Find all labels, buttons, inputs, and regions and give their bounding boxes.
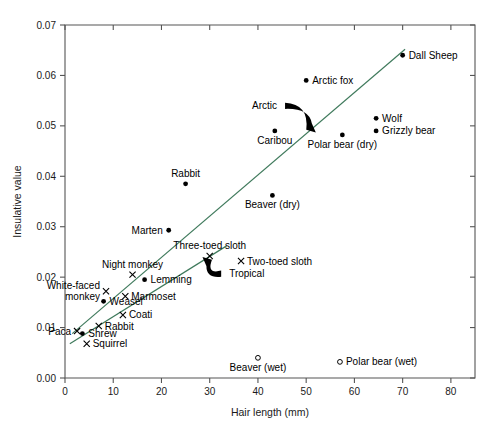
y-tick-label: 0.07 — [37, 20, 57, 31]
data-point-label: Squirrel — [93, 338, 127, 349]
x-tick-label: 80 — [445, 386, 457, 397]
x-axis-title: Hair length (mm) — [231, 406, 309, 418]
data-point-marker — [238, 258, 244, 264]
data-point-label: Night monkey — [102, 259, 163, 270]
data-point-marker — [129, 272, 135, 278]
x-tick-label: 30 — [204, 386, 216, 397]
data-point-label: Rabbit — [171, 168, 200, 179]
data-point-marker — [272, 129, 277, 134]
data-point-marker — [84, 341, 90, 347]
data-point-label: Polar bear (wet) — [346, 356, 417, 367]
data-point-marker — [120, 312, 126, 318]
data-point-marker — [183, 181, 188, 186]
data-point-marker — [340, 133, 345, 138]
arctic-annotation-arrow — [285, 103, 316, 133]
data-point-label: White-faced — [47, 280, 100, 291]
tropical-annotation-label: Tropical — [229, 268, 264, 279]
chart-canvas: 010203040506070800.000.010.020.030.040.0… — [0, 0, 492, 430]
insulative-value-scatter-chart: 010203040506070800.000.010.020.030.040.0… — [0, 0, 492, 430]
y-tick-label: 0.00 — [37, 373, 57, 384]
data-point-marker — [166, 228, 171, 233]
data-point-marker — [207, 253, 213, 259]
arctic-trend — [72, 49, 405, 333]
x-tick-label: 0 — [62, 386, 68, 397]
data-point-label: Beaver (dry) — [245, 199, 300, 210]
data-point-marker — [374, 129, 379, 134]
data-point-label: Polar bear (dry) — [308, 139, 377, 150]
data-point-marker — [103, 288, 109, 294]
tropical-annotation-arrow — [202, 257, 221, 277]
data-point-label: Caribou — [257, 135, 292, 146]
data-point-marker — [400, 53, 405, 58]
data-point-label: Marten — [132, 225, 163, 236]
data-point-marker — [101, 299, 106, 304]
data-point-marker — [338, 359, 343, 364]
y-tick-label: 0.05 — [37, 120, 57, 131]
x-tick-label: 70 — [397, 386, 409, 397]
data-point-label: Two-toed sloth — [247, 256, 312, 267]
data-point-marker — [270, 193, 275, 198]
data-point-label: Wolf — [382, 113, 402, 124]
data-point-label: Dall Sheep — [409, 50, 458, 61]
data-point-label: Arctic fox — [312, 75, 353, 86]
data-point-label: Beaver (wet) — [230, 362, 287, 373]
data-point-label: Paca — [48, 326, 71, 337]
x-tick-label: 20 — [156, 386, 168, 397]
data-point-labels-layer: Dall SheepArctic foxWolfGrizzly bearPola… — [47, 50, 458, 373]
x-tick-label: 40 — [252, 386, 264, 397]
data-point-label: Marmoset — [131, 291, 176, 302]
data-point-marker — [374, 116, 379, 121]
annotations-layer: ArcticTropical — [202, 100, 315, 279]
y-tick-label: 0.04 — [37, 171, 57, 182]
x-tick-label: 60 — [349, 386, 361, 397]
data-point-label: Rabbit — [105, 321, 134, 332]
y-axis-title: Insulative value — [11, 165, 23, 238]
data-point-label: Coati — [129, 309, 152, 320]
x-tick-label: 50 — [301, 386, 313, 397]
data-point-marker — [256, 355, 261, 360]
data-point-label: Three-toed sloth — [173, 240, 246, 251]
x-tick-label: 10 — [108, 386, 120, 397]
y-tick-label: 0.06 — [37, 70, 57, 81]
data-points-layer — [74, 53, 405, 364]
data-point-marker — [304, 78, 309, 83]
data-point-marker — [142, 277, 147, 282]
data-point-label: Grizzly bear — [382, 125, 436, 136]
data-point-marker — [80, 331, 85, 336]
y-tick-label: 0.03 — [37, 221, 57, 232]
data-point-label: monkey — [65, 291, 100, 302]
arctic-annotation-label: Arctic — [252, 100, 277, 111]
data-point-label: Lemming — [151, 274, 192, 285]
